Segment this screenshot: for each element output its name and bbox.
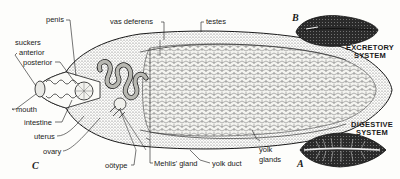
caption-excretory-system: EXCRETORY SYSTEM <box>340 44 400 60</box>
label-suckers: suckers <box>15 39 41 47</box>
caption-digestive-system: DIGESTIVE SYSTEM <box>345 121 399 137</box>
label-mouth: mouth <box>16 106 37 114</box>
label-vas-deferens: vas deferens <box>110 18 153 26</box>
caption-excretory-line2: SYSTEM <box>340 52 400 60</box>
label-yolk-glands-2: glands <box>259 156 281 164</box>
panel-letter-b: B <box>292 12 299 23</box>
label-posterior: posterior <box>23 59 52 67</box>
excretory-system-figure <box>296 16 378 47</box>
label-yolk-glands-1: yolk <box>259 146 272 154</box>
panel-letter-c: C <box>32 160 39 171</box>
label-yolk-duct: yolk duct <box>212 160 242 168</box>
label-uterus: uterus <box>34 133 55 141</box>
fluke-body <box>35 31 392 150</box>
label-penis: penis <box>46 16 64 24</box>
label-ootype: oötype <box>105 162 128 170</box>
label-mehlis-gland: Mehlis' gland <box>154 160 198 168</box>
fluke-anatomy-diagram: penis vas deferens testes suckers anteri… <box>0 0 400 179</box>
label-ovary: ovary <box>43 148 61 156</box>
label-intestine: intestine <box>24 119 52 127</box>
label-testes: testes <box>206 18 226 26</box>
label-anterior: anterior <box>19 49 44 57</box>
panel-letter-a: A <box>297 158 304 169</box>
caption-digestive-line2: SYSTEM <box>345 129 399 137</box>
